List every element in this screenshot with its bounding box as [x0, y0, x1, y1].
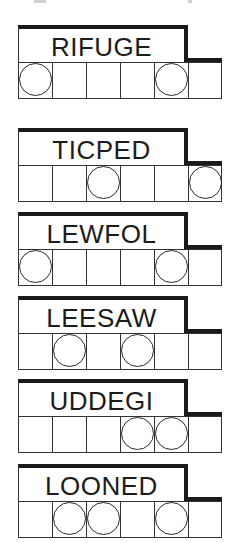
- answer-cell[interactable]: [86, 417, 120, 453]
- circle-marker-icon: [155, 250, 188, 283]
- answer-cell[interactable]: [52, 166, 86, 202]
- answer-cell[interactable]: [188, 63, 222, 99]
- answer-cell[interactable]: [120, 63, 154, 99]
- answer-cell[interactable]: [154, 166, 188, 202]
- scrambled-word-box: LEWFOL: [18, 212, 188, 249]
- circle-marker-icon: [19, 63, 52, 96]
- scrambled-word-box: UDDEGI: [18, 379, 188, 416]
- circle-marker-icon: [19, 250, 52, 283]
- answer-cell-circled[interactable]: [188, 166, 222, 202]
- answer-cell[interactable]: [86, 250, 120, 286]
- scrambled-word: UDDEGI: [49, 385, 153, 414]
- jumble-puzzle: LEWFOL: [18, 212, 222, 286]
- answer-cell[interactable]: [188, 417, 222, 453]
- circle-marker-icon: [121, 417, 154, 450]
- scrambled-word: RIFUGE: [51, 31, 152, 60]
- jumble-puzzle: LEESAW: [18, 296, 222, 370]
- circle-marker-icon: [189, 166, 222, 199]
- answer-cells: [18, 62, 222, 98]
- answer-cell-circled[interactable]: [18, 63, 52, 99]
- circle-marker-icon: [155, 63, 188, 96]
- jumble-puzzle: TICPED: [18, 128, 222, 202]
- circle-marker-icon: [121, 334, 154, 367]
- answer-cell[interactable]: [120, 502, 154, 538]
- answer-cell[interactable]: [188, 250, 222, 286]
- scrambled-word: TICPED: [52, 134, 150, 163]
- answer-cell[interactable]: [154, 334, 188, 370]
- jumble-puzzle: RIFUGE: [18, 25, 222, 99]
- answer-cell[interactable]: [18, 334, 52, 370]
- circle-marker-icon: [87, 166, 120, 199]
- answer-cells: [18, 165, 222, 201]
- answer-cell[interactable]: [18, 166, 52, 202]
- circle-marker-icon: [87, 502, 120, 535]
- circle-marker-icon: [53, 334, 86, 367]
- cropped-text-fragment: [188, 0, 192, 3]
- answer-cell[interactable]: [86, 63, 120, 99]
- scrambled-word-box: LOONED: [18, 464, 188, 501]
- answer-cell[interactable]: [120, 250, 154, 286]
- answer-cell-circled[interactable]: [18, 250, 52, 286]
- scrambled-word: LOONED: [45, 470, 158, 499]
- jumble-puzzle: UDDEGI: [18, 379, 222, 453]
- answer-cell[interactable]: [52, 250, 86, 286]
- circle-marker-icon: [155, 502, 188, 535]
- answer-cells: [18, 249, 222, 285]
- answer-cell-circled[interactable]: [120, 417, 154, 453]
- answer-cell[interactable]: [18, 502, 52, 538]
- answer-cell-circled[interactable]: [154, 417, 188, 453]
- answer-cell-circled[interactable]: [86, 166, 120, 202]
- answer-cell[interactable]: [52, 63, 86, 99]
- circle-marker-icon: [53, 502, 86, 535]
- answer-cell-circled[interactable]: [154, 502, 188, 538]
- answer-cell[interactable]: [188, 334, 222, 370]
- answer-cell[interactable]: [18, 417, 52, 453]
- answer-cell-circled[interactable]: [52, 334, 86, 370]
- answer-cell-circled[interactable]: [120, 334, 154, 370]
- scrambled-word: LEESAW: [46, 302, 156, 331]
- scrambled-word-box: LEESAW: [18, 296, 188, 333]
- circle-marker-icon: [155, 417, 188, 450]
- answer-cell-circled[interactable]: [154, 63, 188, 99]
- answer-cell[interactable]: [120, 166, 154, 202]
- answer-cell-circled[interactable]: [154, 250, 188, 286]
- cropped-text-fragment: [34, 0, 46, 3]
- answer-cell[interactable]: [188, 502, 222, 538]
- answer-cells: [18, 501, 222, 537]
- answer-cell[interactable]: [52, 417, 86, 453]
- answer-cell-circled[interactable]: [86, 502, 120, 538]
- scrambled-word: LEWFOL: [47, 218, 157, 247]
- answer-cells: [18, 333, 222, 369]
- scrambled-word-box: TICPED: [18, 128, 188, 165]
- answer-cell-circled[interactable]: [52, 502, 86, 538]
- answer-cells: [18, 416, 222, 452]
- jumble-puzzle: LOONED: [18, 464, 222, 538]
- answer-cell[interactable]: [86, 334, 120, 370]
- scrambled-word-box: RIFUGE: [18, 25, 188, 62]
